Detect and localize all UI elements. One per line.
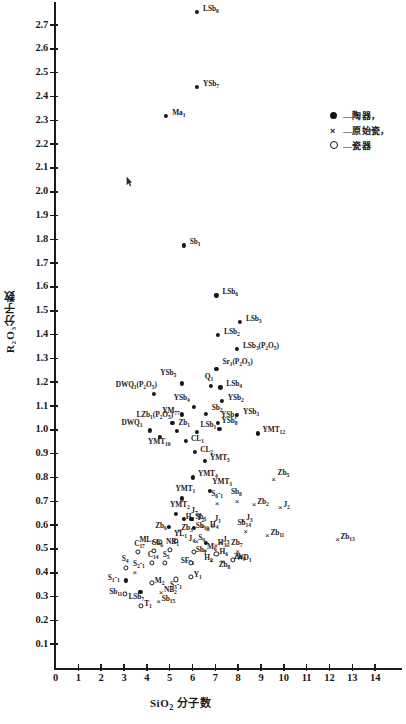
data-point-lsb2 xyxy=(216,333,220,337)
y-tick xyxy=(50,24,58,26)
data-point-ymt5 xyxy=(203,459,207,463)
y-tick-label: 1.5 xyxy=(14,305,48,315)
point-label: C17 xyxy=(134,540,145,550)
data-point-lsb4 xyxy=(218,385,222,389)
point-label: YMT3 xyxy=(212,478,232,488)
x-tick-label: 2 xyxy=(92,672,110,683)
point-label: Zb8 xyxy=(219,561,231,571)
point-label: C14 xyxy=(148,551,159,561)
point-label: Sh1 xyxy=(196,546,207,556)
data-point-s6-1: × xyxy=(214,499,221,506)
data-point-sr1-p2o5- xyxy=(214,367,218,371)
y-tick-label: 2.0 xyxy=(14,186,48,196)
point-label: S5 xyxy=(163,551,170,561)
y-tick-label: 1.1 xyxy=(14,401,48,411)
x-axis-title: SiO2 分子数 xyxy=(150,694,211,712)
point-label: Ma1 xyxy=(172,109,185,119)
point-label: YMT2 xyxy=(170,501,190,511)
data-point-ysb1 xyxy=(216,421,220,425)
y-tick-label: 2.3 xyxy=(14,115,48,125)
data-point-y1 xyxy=(188,574,193,579)
point-label: S3-1 xyxy=(170,581,182,591)
y-tick-label: 0.5 xyxy=(14,543,48,553)
data-point-dwq1 xyxy=(147,428,151,432)
y-tick xyxy=(50,96,58,98)
point-label: Sb1 xyxy=(190,238,201,248)
y-tick xyxy=(50,48,58,50)
point-label: LSb8 xyxy=(203,5,219,15)
point-label: YMT1 xyxy=(176,485,196,495)
y-tick-label: 0.3 xyxy=(14,591,48,601)
data-point-lzb1-p2o5- xyxy=(170,421,174,425)
y-tick-label: 0.7 xyxy=(14,496,48,506)
data-point-zb5: × xyxy=(270,475,277,482)
x-tick-label: 7 xyxy=(206,672,224,683)
point-label: H4 xyxy=(210,521,218,531)
data-point-ysb4 xyxy=(192,404,196,408)
y-tick xyxy=(50,239,58,241)
y-tick xyxy=(50,358,58,360)
y-tick-label: 0.4 xyxy=(14,567,48,577)
x-axis-line xyxy=(54,668,402,670)
point-label: LSb3 xyxy=(246,315,262,325)
point-label: Y1 xyxy=(194,571,202,581)
filled-circle-icon xyxy=(330,111,343,121)
x-tick xyxy=(237,664,239,671)
y-tick-label: 1.4 xyxy=(14,329,48,339)
point-label: LSb6 xyxy=(222,288,238,298)
data-point-t1 xyxy=(139,603,144,608)
y-tick-label: 1.7 xyxy=(14,258,48,268)
y-tick xyxy=(50,72,58,74)
point-label: Zb11 xyxy=(270,529,284,539)
point-label: Zb6 xyxy=(155,522,167,532)
x-tick-label: 14 xyxy=(366,672,384,683)
x-tick xyxy=(329,664,331,671)
x-tick xyxy=(146,664,148,671)
point-label: SF-1 xyxy=(181,557,195,567)
x-tick xyxy=(306,664,308,671)
legend-item: —瓷器 xyxy=(330,138,404,153)
x-tick xyxy=(215,664,217,671)
y-tick xyxy=(50,381,58,383)
y-tick-label: 1.0 xyxy=(14,424,48,434)
x-tick xyxy=(374,664,376,671)
x-tick xyxy=(100,664,102,671)
data-point-h6 xyxy=(214,552,219,557)
x-tick xyxy=(78,664,80,671)
data-point-cl1 xyxy=(184,439,188,443)
y-tick-label: 1.6 xyxy=(14,281,48,291)
data-point-lsb6 xyxy=(214,293,218,297)
y-tick xyxy=(50,524,58,526)
point-label: YSb3 xyxy=(243,408,259,418)
data-point-dwq1-p2o5- xyxy=(152,392,156,396)
data-point-ymt2 xyxy=(174,512,178,516)
point-label: Zb2 xyxy=(257,498,269,508)
data-point-s4 xyxy=(123,565,128,570)
point-label: Sb8 xyxy=(231,488,242,498)
x-tick xyxy=(192,664,194,671)
x-tick-label: 5 xyxy=(161,672,179,683)
x-tick xyxy=(352,664,354,671)
x-tick xyxy=(260,664,262,671)
y-axis-title: R₂O₃分子数 xyxy=(2,290,18,353)
data-point-ysb7 xyxy=(195,85,199,89)
legend-item: ×—原始瓷， xyxy=(330,123,404,138)
y-tick-label: 2.7 xyxy=(14,20,48,30)
y-tick-label: 1.9 xyxy=(14,210,48,220)
point-label: M2 xyxy=(155,577,165,587)
data-point-s1-1 xyxy=(124,578,128,582)
y-tick-label: 2.6 xyxy=(14,43,48,53)
point-label: T2 xyxy=(197,514,205,524)
y-tick-label: 1.2 xyxy=(14,377,48,387)
point-label: LSb2 xyxy=(224,328,240,338)
point-label: LSb3(P2O5) xyxy=(243,342,279,352)
point-label: H6 xyxy=(219,548,227,558)
legend-item: —陶器， xyxy=(330,108,404,123)
scatter-plot: 0.10.20.30.40.50.60.70.80.91.01.11.21.31… xyxy=(0,0,406,724)
y-tick xyxy=(50,453,58,455)
point-label: YMT5 xyxy=(210,454,230,464)
data-point-sb2 xyxy=(204,412,208,416)
data-point-ymt4 xyxy=(191,475,195,479)
data-point-zb1 xyxy=(174,429,178,433)
legend-label: —原始瓷， xyxy=(343,124,390,137)
